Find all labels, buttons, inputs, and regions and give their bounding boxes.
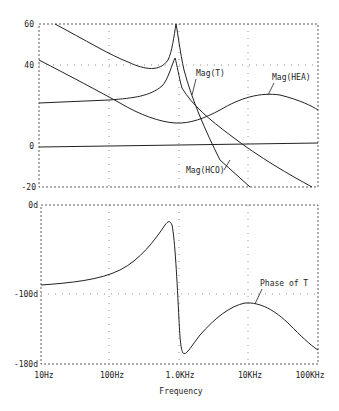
ytick-0: 0: [29, 142, 34, 151]
pointer-mag-t: [192, 79, 196, 95]
label-phase-t: Phase of T: [260, 279, 308, 288]
xtick-100hz: 100Hz: [100, 371, 124, 380]
xtick-10khz: 10KHz: [238, 371, 262, 380]
zero-line: [39, 143, 318, 147]
pointer-phase-t: [255, 289, 262, 304]
ytick-minus100d: -100d: [14, 290, 38, 299]
xtick-1khz: 1.0KHz: [166, 371, 195, 380]
xtick-10hz: 10Hz: [34, 371, 53, 380]
label-mag-t: Mag(T): [196, 69, 225, 78]
label-mag-hco: Mag(HCO): [186, 166, 225, 175]
pointer-mag-hea: [268, 83, 274, 95]
bode-plot: 60 40 0 -20 0d -100d -180d 10Hz 100Hz 1.…: [0, 0, 339, 411]
ytick-minus20: -20: [22, 183, 37, 192]
magnitude-grid: [39, 24, 318, 187]
mag-hea-curve: [39, 60, 318, 123]
mag-hco-curve: [55, 24, 250, 187]
ytick-40: 40: [24, 61, 34, 70]
label-mag-hea: Mag(HEA): [272, 73, 311, 82]
magnitude-plot-frame: [39, 24, 318, 187]
ytick-minus180d: -180d: [14, 360, 38, 369]
ytick-60: 60: [24, 20, 34, 29]
xtick-100khz: 100KHz: [296, 371, 325, 380]
ytick-0d: 0d: [28, 201, 38, 210]
x-axis-label: Frequency: [159, 387, 203, 396]
